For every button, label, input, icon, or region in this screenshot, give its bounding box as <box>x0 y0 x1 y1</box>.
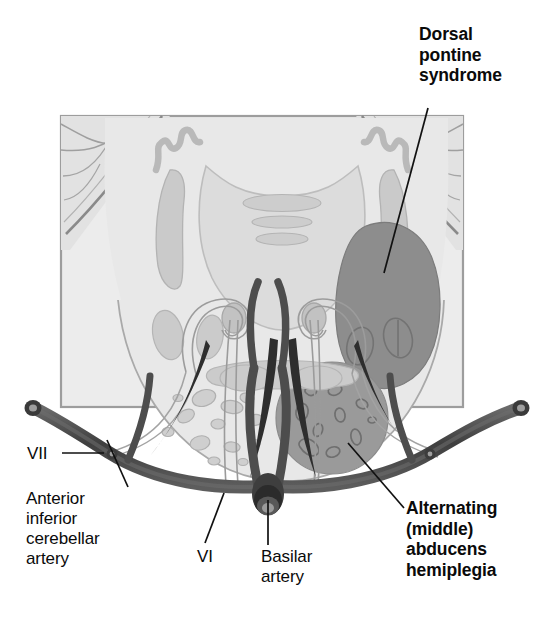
label-dorsal-pontine-syndrome: Dorsal pontine syndrome <box>419 24 554 86</box>
dorsal-pontine-lesion <box>336 223 440 389</box>
leader-vi <box>205 493 224 543</box>
label-alternating-abducens-hemiplegia: Alternating (middle) abducens hemiplegia <box>406 498 554 581</box>
label-anterior-inferior-cerebellar-artery: Anterior inferior cerebellar artery <box>26 489 142 569</box>
label-cranial-nerve-vi: VI <box>197 547 213 567</box>
anatomical-figure: Dorsal pontine syndrome Alternating (mid… <box>0 0 557 634</box>
label-basilar-artery: Basilar artery <box>261 547 347 587</box>
label-cranial-nerve-vii: VII <box>27 444 48 464</box>
